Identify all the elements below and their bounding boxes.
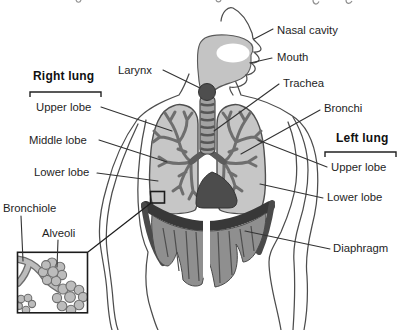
left-upper-lobe-leader	[258, 140, 327, 167]
label-larynx: Larynx	[118, 64, 152, 76]
left-lung-bracket	[325, 152, 396, 157]
label-left-lower-lobe: Lower lobe	[327, 191, 382, 203]
right-lung-bracket	[30, 92, 101, 97]
respiratory-system-diagram: Nasal cavity Mouth Larynx Trachea Bronch…	[0, 0, 410, 330]
label-left-upper-lobe: Upper lobe	[331, 161, 386, 173]
mouth-cavity-shape	[217, 44, 250, 63]
diagram-canvas: Nasal cavity Mouth Larynx Trachea Bronch…	[0, 0, 410, 330]
diaphragm-group	[144, 203, 272, 287]
label-bronchiole: Bronchiole	[3, 202, 56, 214]
larynx-leader	[163, 70, 200, 88]
label-diaphragm: Diaphragm	[333, 242, 388, 254]
label-nasal-cavity: Nasal cavity	[277, 24, 338, 36]
label-right-lower-lobe: Lower lobe	[34, 166, 89, 178]
left-lower-lobe-leader	[260, 184, 323, 198]
alveoli-inset	[16, 252, 88, 315]
mouth-leader	[250, 58, 272, 63]
label-right-middle-lobe: Middle lobe	[29, 134, 87, 146]
page-crop-text-remnants	[76, 0, 352, 4]
nasal-cavity-leader	[254, 29, 273, 39]
magnifier-projection-line	[88, 203, 151, 252]
label-alveoli: Alveoli	[42, 227, 75, 239]
head	[198, 8, 261, 95]
label-bronchi: Bronchi	[324, 102, 362, 114]
label-trachea: Trachea	[283, 77, 325, 89]
label-mouth: Mouth	[277, 51, 308, 63]
esophagus-gap	[203, 212, 210, 280]
heading-left-lung: Left lung	[336, 131, 388, 145]
larynx-shape	[199, 84, 216, 101]
heading-right-lung: Right lung	[33, 69, 94, 83]
label-right-upper-lobe: Upper lobe	[36, 101, 91, 113]
left-arm-inner-line	[106, 124, 138, 330]
